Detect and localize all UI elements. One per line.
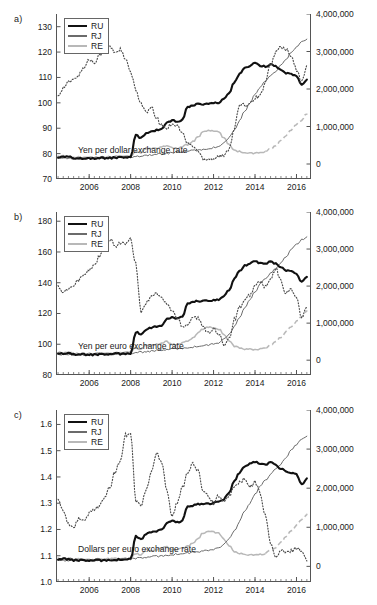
- legend-b: RURJRE: [64, 216, 109, 252]
- ytick-right-label: 1,000,000: [316, 319, 354, 328]
- panel-a: a) 1301201101009080704,000,0003,000,0002…: [0, 0, 377, 200]
- ytick-right-label: 2,000,000: [316, 484, 354, 493]
- panel-a-inplot-label: Yen per dollar exchange rate: [78, 145, 188, 155]
- ytick-left-label: 100: [38, 99, 52, 108]
- ytick-left-label: 80: [43, 371, 52, 380]
- xtick-label: 2008: [121, 586, 140, 595]
- legend-label-rj: RJ: [91, 230, 101, 239]
- series-line-exchange-rate: [58, 46, 307, 160]
- xtick-label: 2012: [204, 379, 223, 388]
- legend-item-re[interactable]: RE: [68, 437, 103, 447]
- legend-label-re: RE: [91, 42, 103, 51]
- xtick-label: 2008: [121, 379, 140, 388]
- panel-b: b) 180160140120100804,000,0003,000,0002,…: [0, 198, 377, 396]
- ytick-left-label: 1.4: [40, 473, 52, 482]
- xtick-label: 2010: [163, 379, 182, 388]
- xtick-label: 2012: [204, 183, 223, 192]
- ytick-left-label: 100: [38, 340, 52, 349]
- xtick-label: 2008: [121, 183, 140, 192]
- legend-label-re: RE: [91, 240, 103, 249]
- legend-a: RURJRE: [64, 18, 109, 54]
- xtick-label: 2010: [163, 586, 182, 595]
- xtick-label: 2010: [163, 183, 182, 192]
- legend-swatch-rj: [68, 35, 87, 36]
- panel-b-label: b): [14, 212, 22, 222]
- ytick-left-label: 1.2: [40, 525, 52, 534]
- legend-swatch-ru: [68, 223, 87, 225]
- ytick-right-label: 0: [316, 356, 321, 365]
- legend-item-rj[interactable]: RJ: [68, 427, 103, 437]
- ytick-right-label: 2,000,000: [316, 85, 354, 94]
- xtick-label: 2006: [80, 586, 99, 595]
- panel-c-inplot-label: Dollars per euro exchange rate: [78, 544, 196, 554]
- legend-item-re[interactable]: RE: [68, 239, 103, 249]
- panel-c-plot: 1.61.51.41.31.21.11.04,000,0003,000,0002…: [56, 410, 311, 582]
- xtick-label: 2016: [287, 379, 306, 388]
- ytick-right-label: 4,000,000: [316, 208, 354, 217]
- ytick-left-label: 160: [38, 248, 52, 257]
- series-line-re-dashed: [265, 514, 306, 553]
- ytick-right-label: 0: [316, 160, 321, 169]
- ytick-right-label: 3,000,000: [316, 445, 354, 454]
- ytick-left-label: 1.0: [40, 578, 52, 587]
- legend-label-rj: RJ: [91, 32, 101, 41]
- ytick-left-label: 90: [43, 124, 52, 133]
- ytick-left-label: 1.3: [40, 499, 52, 508]
- ytick-right-label: 3,000,000: [316, 47, 354, 56]
- xtick-label: 2014: [246, 586, 265, 595]
- ytick-left-label: 1.5: [40, 446, 52, 455]
- ytick-right-label: 1,000,000: [316, 523, 354, 532]
- panel-c-label: c): [14, 410, 22, 420]
- legend-swatch-re: [68, 45, 87, 46]
- panel-c: c) 1.61.51.41.31.21.11.04,000,0003,000,0…: [0, 396, 377, 605]
- ytick-right-label: 4,000,000: [316, 10, 354, 19]
- ytick-left-label: 180: [38, 217, 52, 226]
- ytick-left-label: 130: [38, 22, 52, 31]
- legend-label-ru: RU: [91, 418, 103, 427]
- series-line-exchange-rate: [58, 238, 307, 346]
- series-line-re-tail-mask: [265, 114, 306, 151]
- legend-swatch-re: [68, 441, 87, 442]
- legend-item-ru[interactable]: RU: [68, 219, 103, 229]
- legend-swatch-rj: [68, 233, 87, 234]
- legend-item-rj[interactable]: RJ: [68, 229, 103, 239]
- legend-label-rj: RJ: [91, 428, 101, 437]
- xtick-label: 2012: [204, 586, 223, 595]
- ytick-right-label: 1,000,000: [316, 122, 354, 131]
- legend-swatch-ru: [68, 421, 87, 423]
- xtick-label: 2006: [80, 379, 99, 388]
- xtick-label: 2014: [246, 183, 265, 192]
- xtick-label: 2016: [287, 183, 306, 192]
- xtick-label: 2006: [80, 183, 99, 192]
- panel-b-plot: 180160140120100804,000,0003,000,0002,000…: [56, 212, 311, 375]
- ytick-right-label: 4,000,000: [316, 406, 354, 415]
- ytick-left-label: 140: [38, 278, 52, 287]
- series-line-re-tail-mask: [265, 311, 306, 348]
- legend-swatch-re: [68, 243, 87, 244]
- ytick-right-label: 0: [316, 562, 321, 571]
- ytick-right-label: 3,000,000: [316, 245, 354, 254]
- legend-label-re: RE: [91, 438, 103, 447]
- legend-c: RURJRE: [64, 414, 109, 450]
- legend-item-rj[interactable]: RJ: [68, 31, 103, 41]
- ytick-left-label: 120: [38, 309, 52, 318]
- ytick-left-label: 120: [38, 48, 52, 57]
- series-line-rj: [58, 39, 307, 159]
- series-line-exchange-rate: [58, 433, 307, 561]
- series-line-rj: [58, 237, 307, 356]
- legend-item-ru[interactable]: RU: [68, 417, 103, 427]
- legend-item-ru[interactable]: RU: [68, 21, 103, 31]
- series-line-rj: [58, 436, 307, 561]
- ytick-left-label: 110: [38, 73, 52, 82]
- ytick-left-label: 1.6: [40, 420, 52, 429]
- xtick-label: 2016: [287, 586, 306, 595]
- legend-swatch-rj: [68, 431, 87, 432]
- legend-label-ru: RU: [91, 22, 103, 31]
- legend-item-re[interactable]: RE: [68, 41, 103, 51]
- panel-b-inplot-label: Yen per euro exchange rate: [78, 341, 184, 351]
- ytick-left-label: 80: [43, 149, 52, 158]
- legend-swatch-ru: [68, 25, 87, 27]
- ytick-right-label: 2,000,000: [316, 282, 354, 291]
- panel-a-label: a): [14, 14, 22, 24]
- ytick-left-label: 70: [43, 175, 52, 184]
